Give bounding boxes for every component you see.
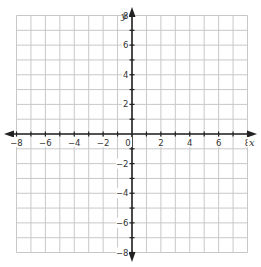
x-tick-label: −8: [10, 138, 23, 148]
y-tick-label: 2: [123, 99, 128, 109]
y-tick-label: 6: [123, 40, 128, 50]
x-tick-label: 6: [216, 138, 221, 148]
x-tick-label: −4: [68, 138, 81, 148]
x-tick-label: 4: [187, 138, 192, 148]
x-tick-label: 2: [158, 138, 163, 148]
coordinate-plane: −8−6−4−2024688642−2−4−6−8 x y: [0, 0, 261, 267]
x-axis-label: x: [249, 137, 255, 148]
x-tick-label: −6: [39, 138, 52, 148]
x-axis-left-arrow-icon: [4, 131, 14, 138]
y-tick-label: −2: [116, 159, 129, 169]
y-axis-label: y: [120, 10, 127, 21]
y-tick-label: −8: [116, 248, 129, 258]
y-tick-label: 4: [123, 70, 128, 80]
x-tick-label: 0: [125, 138, 130, 148]
x-tick-label: −2: [97, 138, 110, 148]
y-tick-label: −6: [116, 218, 129, 228]
y-tick-label: −4: [116, 188, 129, 198]
y-axis-down-arrow-icon: [129, 252, 136, 262]
